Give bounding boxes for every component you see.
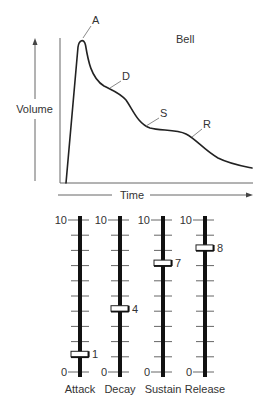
scale-min-label: 0: [101, 366, 107, 378]
slider-name: Release: [185, 383, 225, 395]
scale-max-label: 10: [180, 214, 192, 226]
graph-title: Bell: [176, 33, 194, 45]
scale-max-label: 10: [138, 214, 150, 226]
phase-label-sustain: S: [146, 107, 167, 126]
scale-max-label: 10: [55, 214, 67, 226]
envelope-graph: Volume Time Bell A D S R: [16, 14, 253, 201]
scale-max-label: 10: [95, 214, 107, 226]
adsr-diagram: Volume Time Bell A D S R: [0, 0, 265, 403]
slider-track[interactable]: [203, 216, 207, 377]
slider-name: Sustain: [145, 383, 182, 395]
slider-attack[interactable]: 10 0 1 Attack: [55, 214, 98, 395]
slider-value: 8: [217, 242, 223, 254]
scale-min-label: 0: [61, 366, 67, 378]
leader-line: [192, 129, 202, 137]
phase-label-attack: A: [83, 14, 100, 38]
slider-knob[interactable]: [196, 245, 214, 251]
slider-decay[interactable]: 10 0 4 Decay: [95, 214, 138, 395]
y-axis-label: Volume: [16, 103, 53, 115]
slider-knob-body[interactable]: [111, 306, 128, 312]
slider-value: 7: [175, 257, 181, 269]
phase-letter-sustain: S: [160, 107, 167, 119]
slider-release[interactable]: 10 0 8 Release: [180, 214, 225, 395]
phase-label-release: R: [192, 118, 211, 137]
scale-min-label: 0: [186, 366, 192, 378]
slider-name: Decay: [104, 383, 136, 395]
slider-track[interactable]: [161, 216, 165, 377]
arrow-right-icon: [246, 193, 253, 198]
slider-sustain[interactable]: 10 0 7 Sustain: [138, 214, 182, 395]
slider-knob[interactable]: [111, 306, 129, 312]
phase-label-decay: D: [110, 70, 130, 88]
phase-letter-decay: D: [122, 70, 130, 82]
slider-value: 4: [132, 303, 138, 315]
phase-letter-attack: A: [92, 14, 100, 26]
slider-name: Attack: [65, 383, 96, 395]
slider-knob-body[interactable]: [154, 260, 171, 266]
time-arrow: [58, 193, 253, 198]
slider-knob[interactable]: [71, 351, 89, 357]
x-axis-label: Time: [120, 189, 144, 201]
leader-line: [146, 118, 159, 126]
slider-knob-body[interactable]: [71, 351, 88, 357]
arrow-up-icon: [33, 38, 38, 45]
slider-value: 1: [92, 348, 98, 360]
slider-track[interactable]: [118, 216, 122, 377]
leader-line: [110, 81, 121, 88]
leader-line: [83, 26, 91, 38]
slider-bank: 10 0 1 Attack 10 0 4 Decay: [55, 214, 225, 395]
slider-knob[interactable]: [154, 260, 172, 266]
envelope-curve: [66, 41, 252, 183]
phase-letter-release: R: [203, 118, 211, 130]
slider-knob-body[interactable]: [196, 245, 213, 251]
scale-min-label: 0: [144, 366, 150, 378]
